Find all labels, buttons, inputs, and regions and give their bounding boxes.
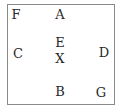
label-f: F (11, 8, 20, 21)
label-b: B (55, 85, 65, 98)
label-c: C (13, 47, 23, 60)
label-x: X (55, 52, 64, 65)
label-d: D (99, 46, 109, 59)
label-g: G (96, 86, 106, 99)
label-e: E (55, 36, 65, 49)
label-a: A (55, 8, 64, 21)
